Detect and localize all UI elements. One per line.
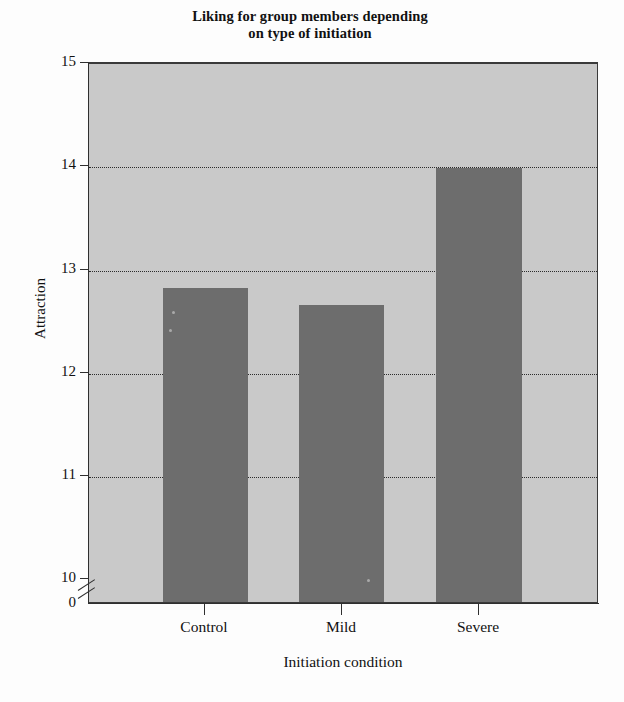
- x-tick-mild: [341, 604, 342, 615]
- y-axis-title: Attraction: [32, 229, 49, 389]
- y-tick-label-14: 14: [30, 157, 76, 172]
- y-tick-13: [80, 269, 88, 270]
- x-tick-control: [204, 604, 205, 615]
- x-axis-line: [88, 603, 599, 604]
- x-tick-label-control: Control: [134, 618, 274, 636]
- y-tick-label-10: 10: [30, 570, 76, 585]
- y-tick-12: [80, 372, 88, 373]
- y-tick-label-0: 0: [30, 595, 76, 610]
- bar-mild: [299, 305, 384, 603]
- y-axis-line: [88, 62, 89, 604]
- y-tick-label-11: 11: [30, 467, 76, 482]
- x-tick-label-severe: Severe: [408, 618, 548, 636]
- y-tick-15: [80, 62, 88, 63]
- y-tick-11: [80, 475, 88, 476]
- axis-break-icon: [78, 578, 102, 604]
- x-axis-title: Initiation condition: [88, 653, 598, 671]
- chart-title-line-1: Liking for group members depending: [80, 8, 540, 25]
- chart-title: Liking for group members depending on ty…: [80, 8, 540, 42]
- bar-chart-figure: Liking for group members depending on ty…: [0, 0, 624, 702]
- y-tick-14: [80, 165, 88, 166]
- bar-severe: [436, 168, 522, 603]
- x-tick-label-mild: Mild: [271, 618, 411, 636]
- chart-title-line-2: on type of initiation: [80, 25, 540, 42]
- y-tick-label-15: 15: [30, 54, 76, 69]
- x-tick-severe: [478, 604, 479, 615]
- bar-control: [163, 288, 248, 603]
- plot-area: [88, 62, 598, 603]
